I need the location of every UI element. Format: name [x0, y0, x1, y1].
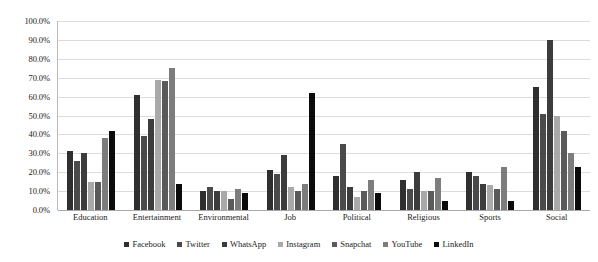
x-axis-category-label: Environmental	[190, 212, 257, 230]
y-axis-tick-label: 20.0%	[29, 167, 50, 177]
bar	[102, 138, 108, 210]
bar	[242, 193, 248, 210]
legend-label: Twitter	[185, 239, 209, 249]
bar-group	[524, 21, 591, 210]
x-axis-category-label: Entertainment	[124, 212, 191, 230]
legend-swatch-icon	[124, 242, 129, 247]
bar	[347, 187, 353, 210]
y-axis-tick-label: 40.0%	[29, 129, 50, 139]
y-axis-tick-label: 90.0%	[29, 35, 50, 45]
bar	[67, 151, 73, 210]
bar	[442, 201, 448, 210]
legend-swatch-icon	[332, 242, 337, 247]
bar-group	[58, 21, 125, 210]
bar	[435, 178, 441, 210]
bar	[473, 176, 479, 210]
bar	[169, 68, 175, 210]
legend-item[interactable]: YouTube	[383, 239, 422, 249]
bar	[207, 187, 213, 210]
bar	[407, 189, 413, 210]
legend-label: YouTube	[391, 239, 422, 249]
bar	[134, 95, 140, 210]
y-axis-tick-label: 10.0%	[29, 186, 50, 196]
legend-item[interactable]: Facebook	[124, 239, 165, 249]
bar	[501, 167, 507, 210]
legend: FacebookTwitterWhatsAppInstagramSnapchat…	[0, 236, 598, 252]
bar	[176, 184, 182, 210]
bar	[494, 189, 500, 210]
bar	[368, 180, 374, 210]
bar	[428, 191, 434, 210]
bar-group	[391, 21, 458, 210]
bar	[274, 174, 280, 210]
legend-label: Instagram	[286, 239, 320, 249]
y-axis: 100.0%90.0%80.0%70.0%60.0%50.0%40.0%30.0…	[0, 21, 55, 210]
axis-baseline	[58, 210, 590, 211]
x-axis-category-label: Sports	[457, 212, 524, 230]
bar	[148, 119, 154, 210]
y-axis-tick-label: 60.0%	[29, 92, 50, 102]
legend-swatch-icon	[177, 242, 182, 247]
bar	[340, 144, 346, 210]
bar	[533, 87, 539, 210]
legend-label: LinkedIn	[442, 239, 473, 249]
x-axis-category-label: Education	[57, 212, 124, 230]
legend-swatch-icon	[434, 242, 439, 247]
bar	[155, 80, 161, 210]
bar	[554, 116, 560, 211]
bar	[235, 189, 241, 210]
legend-swatch-icon	[222, 242, 227, 247]
bar	[575, 167, 581, 210]
legend-label: WhatsApp	[230, 239, 266, 249]
legend-label: Snapchat	[340, 239, 371, 249]
legend-item[interactable]: Instagram	[278, 239, 320, 249]
bar	[141, 136, 147, 210]
bar	[81, 153, 87, 210]
legend-item[interactable]: LinkedIn	[434, 239, 473, 249]
bar-group	[457, 21, 524, 210]
bar	[375, 193, 381, 210]
bar	[200, 191, 206, 210]
bar-chart: 100.0%90.0%80.0%70.0%60.0%50.0%40.0%30.0…	[0, 0, 598, 262]
y-axis-tick-label: 80.0%	[29, 54, 50, 64]
bar	[74, 161, 80, 210]
bar	[547, 40, 553, 210]
x-axis: EducationEntertainmentEnvironmentalJobPo…	[57, 212, 590, 230]
bar-group	[324, 21, 391, 210]
y-axis-tick-label: 30.0%	[29, 148, 50, 158]
x-axis-category-label: Job	[257, 212, 324, 230]
legend-label: Facebook	[132, 239, 165, 249]
bar	[466, 172, 472, 210]
bar	[281, 155, 287, 210]
legend-item[interactable]: Snapchat	[332, 239, 371, 249]
x-axis-category-label: Social	[523, 212, 590, 230]
legend-item[interactable]: WhatsApp	[222, 239, 266, 249]
bar-group	[258, 21, 325, 210]
bar	[109, 131, 115, 210]
bar	[561, 131, 567, 210]
bar	[309, 93, 315, 210]
bar	[221, 191, 227, 210]
x-axis-category-label: Religious	[390, 212, 457, 230]
bar	[568, 153, 574, 210]
bar	[333, 176, 339, 210]
bar	[487, 185, 493, 210]
bar	[267, 170, 273, 210]
bar	[162, 81, 168, 210]
plot-area	[57, 21, 590, 210]
bar	[228, 199, 234, 210]
bar	[288, 187, 294, 210]
bar	[400, 180, 406, 210]
bar	[214, 191, 220, 210]
bar	[295, 191, 301, 210]
bar	[480, 184, 486, 210]
legend-swatch-icon	[383, 242, 388, 247]
y-axis-tick-label: 100.0%	[24, 16, 50, 26]
bar-group	[125, 21, 192, 210]
bar	[540, 114, 546, 210]
bar	[302, 184, 308, 210]
bar	[508, 201, 514, 210]
legend-item[interactable]: Twitter	[177, 239, 209, 249]
y-axis-tick-label: 50.0%	[29, 111, 50, 121]
bar	[354, 197, 360, 210]
